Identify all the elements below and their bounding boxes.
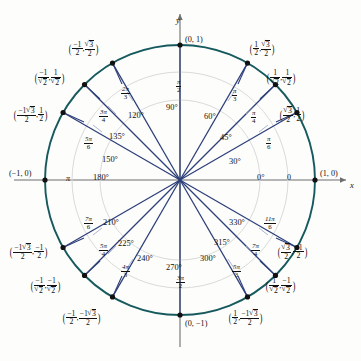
den: 6 — [84, 223, 93, 231]
num: −13 — [13, 243, 32, 252]
degree-label-60: 60° — [204, 113, 216, 121]
coord-300: (12,−132) — [228, 309, 263, 327]
den: 2 — [240, 318, 259, 327]
num: −13 — [240, 309, 259, 318]
paren-close: ) — [58, 281, 61, 291]
point-240 — [110, 294, 115, 299]
den: 4 — [251, 117, 256, 125]
num: 7π — [84, 216, 93, 223]
num: 7π — [251, 243, 260, 250]
den: 6 — [264, 223, 276, 231]
radian-label-5pi4: 5π4 — [99, 243, 108, 258]
radian-label-3pi4: 3π4 — [99, 109, 108, 124]
den: 3 — [121, 271, 130, 279]
radian-label-7pi4: 7π4 — [251, 243, 260, 258]
num: π — [176, 79, 181, 86]
num: 1 — [295, 107, 301, 115]
radian-label-7pi6: 7π6 — [84, 216, 93, 231]
den: 2 — [281, 285, 291, 295]
spoke-120 — [113, 63, 181, 180]
paren-open: ( — [10, 247, 13, 257]
coord-210: (−132,−12) — [9, 243, 49, 261]
den: 2 — [282, 77, 292, 87]
leader-225 — [85, 261, 100, 275]
degree-label-135: 135° — [109, 133, 125, 141]
num: 3 — [261, 40, 271, 49]
y-axis-label: y — [176, 16, 180, 25]
point-150 — [60, 110, 65, 115]
radian-label-4pi3: 4π3 — [121, 264, 130, 279]
coord-60: (12,32) — [249, 40, 275, 58]
den: 2 — [283, 115, 293, 124]
den: 3 — [232, 271, 241, 279]
paren-open: ( — [280, 110, 283, 120]
x-axis-arrow — [340, 177, 346, 182]
leader-315 — [260, 261, 275, 275]
den: 4 — [99, 116, 108, 124]
num: 3 — [283, 106, 293, 115]
degree-label-120: 120° — [128, 112, 144, 120]
paren-close: ) — [45, 247, 48, 257]
coord-150: (−132,12) — [13, 106, 48, 124]
num: 1 — [38, 107, 44, 115]
num: π — [266, 136, 271, 143]
num: 11π — [264, 216, 276, 223]
point-180 — [42, 177, 47, 182]
paren-close: ) — [260, 313, 263, 323]
unit-circle-figure: y x (0, 1) (0, −1) (−1, 0) (1, 0) (12,32… — [0, 0, 361, 361]
num: π — [251, 110, 256, 117]
coord-270: (0, −1) — [185, 320, 207, 328]
paren-open: ( — [35, 73, 38, 83]
den: 2 — [17, 115, 36, 124]
paren-close: ) — [95, 44, 98, 54]
den: 2 — [38, 77, 48, 87]
num: 3π — [176, 275, 185, 282]
num: 4π — [121, 264, 130, 271]
den: 2 — [34, 251, 44, 260]
paren-open: ( — [69, 44, 72, 54]
den: 2 — [85, 49, 95, 58]
den: 6 — [84, 143, 93, 151]
degree-label-30: 30° — [229, 158, 241, 166]
point-0 — [312, 177, 317, 182]
paren-open: ( — [229, 313, 232, 323]
num: 5π — [84, 136, 93, 143]
paren-close: ) — [304, 247, 307, 257]
leader-120 — [113, 63, 123, 84]
num: 5π — [99, 243, 108, 250]
degree-label-330: 330° — [229, 219, 245, 227]
leader-60 — [238, 63, 248, 84]
leader-300 — [238, 276, 248, 297]
leader-135 — [85, 85, 100, 99]
den: 2 — [176, 282, 185, 290]
den: 3 — [232, 95, 237, 103]
degree-label-90: 90° — [166, 104, 178, 112]
radian-label-pi: π — [66, 175, 70, 183]
point-270 — [177, 312, 182, 317]
paren-close: ) — [45, 110, 48, 120]
coord-315: (12,−12) — [265, 277, 296, 295]
leader-240 — [113, 276, 123, 297]
den: 2 — [295, 114, 301, 123]
den: 2 — [79, 318, 98, 327]
coord-330: (32,−12) — [277, 243, 308, 261]
degree-label-270: 270° — [166, 264, 182, 272]
point-90 — [177, 42, 182, 47]
num: −1 — [293, 244, 303, 252]
den: 2 — [13, 252, 32, 261]
num: −1 — [72, 41, 82, 49]
radian-label-pi3: π3 — [232, 88, 237, 103]
coord-90: (0, 1) — [185, 36, 203, 44]
den: 2 — [293, 251, 303, 260]
degree-label-45: 45° — [220, 134, 232, 142]
leader-45 — [260, 85, 275, 99]
den: 6 — [266, 143, 271, 151]
radian-label-5pi6: 5π6 — [84, 136, 93, 151]
spoke-225 — [85, 180, 180, 275]
paren-close: ) — [302, 110, 305, 120]
num: −1 — [66, 310, 76, 318]
coord-180: (−1, 0) — [9, 170, 31, 178]
paren-open: ( — [250, 44, 253, 54]
den: 2 — [38, 114, 44, 123]
paren-close: ) — [293, 73, 296, 83]
